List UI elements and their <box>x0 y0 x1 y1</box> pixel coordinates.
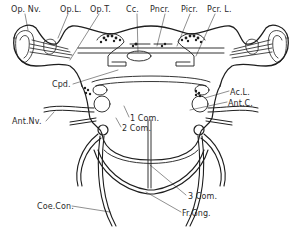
label-commissure-2: 2 Com. <box>122 124 151 133</box>
label-antennal-nerve: Ant.Nv. <box>12 117 42 126</box>
label-optic-lobe: Op.L. <box>60 5 81 14</box>
label-optic-nerve: Op. Nv. <box>11 5 41 14</box>
protocerebrum <box>78 33 224 66</box>
deutocerebrum <box>92 76 210 112</box>
optic-lobe-left <box>16 31 72 63</box>
label-optic-tract: Op.T. <box>90 5 111 14</box>
optic-lobe-right <box>230 31 286 63</box>
label-central-complex: Cc. <box>126 5 139 14</box>
label-accessory-lobe: Ac.L. <box>230 88 250 97</box>
label-frontal-ganglion: Fr.Gng. <box>182 209 211 218</box>
label-commissure-3: 3 Com. <box>188 192 217 201</box>
label-protocerebral-lobe: Pcr. L. <box>207 5 232 14</box>
label-pncr: Pncr. <box>150 5 170 14</box>
label-circumesophageal-connective: Coe.Con. <box>37 202 74 211</box>
label-picr: Picr. <box>181 5 198 14</box>
label-commissure-1: 1 Com. <box>130 114 159 123</box>
diagram-canvas: Op. Nv. Op.L. Op.T. Cc. Pncr. Picr. Pcr.… <box>0 0 303 232</box>
label-corpora-pedunculata: Cpd. <box>52 80 71 89</box>
label-antennal-center: Ant.C. <box>228 99 253 108</box>
